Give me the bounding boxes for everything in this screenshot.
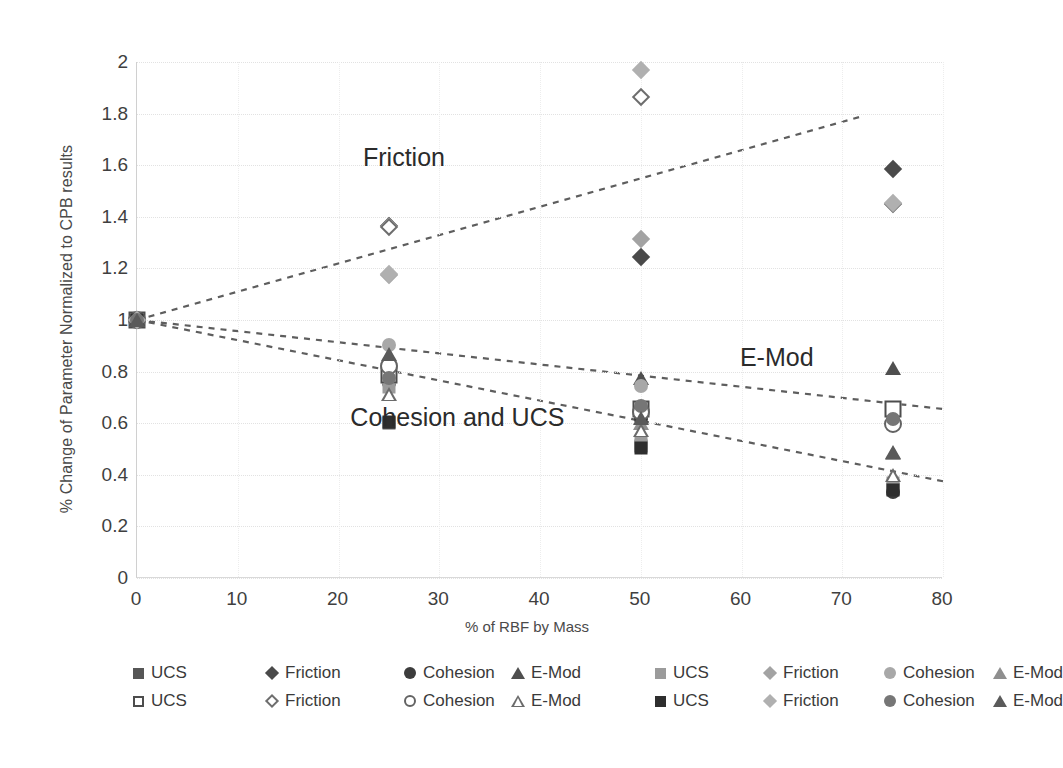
legend-row-1: UCSFrictionCohesionE-ModUCSFrictionCohes… <box>112 660 942 686</box>
data-point-friction <box>382 267 395 280</box>
plot-annotation-e-mod: E-Mod <box>740 343 814 372</box>
triangle-hole <box>384 391 394 400</box>
legend-item-label: Friction <box>285 691 341 711</box>
legend-item-friction[interactable]: Friction <box>264 691 341 711</box>
legend-item-cohesion[interactable]: Cohesion <box>402 663 495 683</box>
circle-shape <box>884 695 896 707</box>
circle-marker-icon <box>882 693 898 709</box>
legend-item-cohesion[interactable]: Cohesion <box>882 663 975 683</box>
data-point-e-mod <box>381 387 397 401</box>
legend-item-e-mod[interactable]: E-Mod <box>992 691 1063 711</box>
triangle-shape <box>511 695 525 707</box>
data-point-friction <box>382 221 395 234</box>
legend-item-label: Friction <box>783 691 839 711</box>
triangle-shape <box>511 667 525 679</box>
legend-item-ucs[interactable]: UCS <box>652 663 709 683</box>
legend-item-label: E-Mod <box>531 691 581 711</box>
trendline <box>137 116 862 320</box>
data-point-e-mod <box>885 445 901 459</box>
triangle-marker-icon <box>510 693 526 709</box>
x-tick-label: 20 <box>308 588 368 610</box>
diamond-marker-icon <box>264 665 280 681</box>
y-tick-label: 0.8 <box>84 361 128 383</box>
figure-caption <box>0 734 1054 768</box>
y-axis-title: % Change of Parameter Normalized to CPB … <box>58 94 76 564</box>
legend-item-ucs[interactable]: UCS <box>130 663 187 683</box>
data-point-ucs <box>886 484 899 497</box>
legend-item-e-mod[interactable]: E-Mod <box>510 691 581 711</box>
legend-item-label: Friction <box>285 663 341 683</box>
diamond-shape <box>632 88 650 106</box>
x-tick-label: 60 <box>711 588 771 610</box>
x-tick-label: 10 <box>207 588 267 610</box>
data-point-e-mod <box>381 347 397 361</box>
legend-row-2: UCSFrictionCohesionE-ModUCSFrictionCohes… <box>112 688 942 714</box>
legend-item-cohesion[interactable]: Cohesion <box>402 691 495 711</box>
square-marker-icon <box>652 693 668 709</box>
legend-item-friction[interactable]: Friction <box>264 663 341 683</box>
triangle-marker-icon <box>510 665 526 681</box>
x-gridline <box>641 62 642 577</box>
square-marker-icon <box>652 665 668 681</box>
diamond-shape <box>763 666 777 680</box>
legend-item-e-mod[interactable]: E-Mod <box>992 663 1063 683</box>
data-point-e-mod <box>633 411 649 425</box>
square-marker-icon <box>130 693 146 709</box>
chart-legend: UCSFrictionCohesionE-ModUCSFrictionCohes… <box>112 658 942 720</box>
triangle-marker-icon <box>992 693 1008 709</box>
legend-item-ucs[interactable]: UCS <box>130 691 187 711</box>
diamond-shape <box>883 160 901 178</box>
x-tick-label: 40 <box>509 588 569 610</box>
legend-item-friction[interactable]: Friction <box>762 691 839 711</box>
data-point-cohesion <box>886 412 900 426</box>
square-marker-icon <box>130 665 146 681</box>
legend-item-e-mod[interactable]: E-Mod <box>510 663 581 683</box>
legend-item-label: Cohesion <box>903 691 975 711</box>
diamond-marker-icon <box>762 693 778 709</box>
x-tick-label: 70 <box>811 588 871 610</box>
circle-marker-icon <box>402 693 418 709</box>
x-tick-label: 30 <box>408 588 468 610</box>
legend-item-label: Cohesion <box>423 691 495 711</box>
diamond-shape <box>883 193 901 211</box>
y-tick-label: 1.4 <box>84 206 128 228</box>
diamond-shape <box>763 694 777 708</box>
data-point-friction <box>634 232 647 245</box>
x-tick-label: 80 <box>912 588 972 610</box>
x-tick-label: 50 <box>610 588 670 610</box>
circle-marker-icon <box>882 665 898 681</box>
x-gridline <box>439 62 440 577</box>
circle-marker-icon <box>402 665 418 681</box>
legend-item-friction[interactable]: Friction <box>762 663 839 683</box>
data-point-friction <box>634 90 647 103</box>
y-tick-label: 0.6 <box>84 412 128 434</box>
diamond-shape <box>265 694 279 708</box>
legend-item-label: E-Mod <box>531 663 581 683</box>
legend-item-label: E-Mod <box>1013 663 1063 683</box>
x-tick-label: 0 <box>106 588 166 610</box>
data-point-friction <box>886 196 899 209</box>
x-gridline <box>238 62 239 577</box>
y-tick-label: 0 <box>84 567 128 589</box>
triangle-hole <box>888 472 898 481</box>
data-point-friction <box>634 63 647 76</box>
legend-item-label: Cohesion <box>903 663 975 683</box>
y-tick-label: 0.4 <box>84 464 128 486</box>
y-tick-label: 1.8 <box>84 103 128 125</box>
square-shape <box>655 696 666 707</box>
legend-item-label: UCS <box>151 663 187 683</box>
x-gridline <box>540 62 541 577</box>
data-point-e-mod <box>129 313 145 327</box>
diamond-marker-icon <box>762 665 778 681</box>
square-shape <box>133 668 144 679</box>
legend-item-cohesion[interactable]: Cohesion <box>882 691 975 711</box>
triangle-hole <box>636 427 646 436</box>
diamond-shape <box>632 248 650 266</box>
legend-item-ucs[interactable]: UCS <box>652 691 709 711</box>
legend-item-label: Cohesion <box>423 663 495 683</box>
legend-item-label: UCS <box>673 663 709 683</box>
circle-shape <box>404 667 416 679</box>
square-shape <box>655 668 666 679</box>
y-gridline <box>137 578 942 579</box>
